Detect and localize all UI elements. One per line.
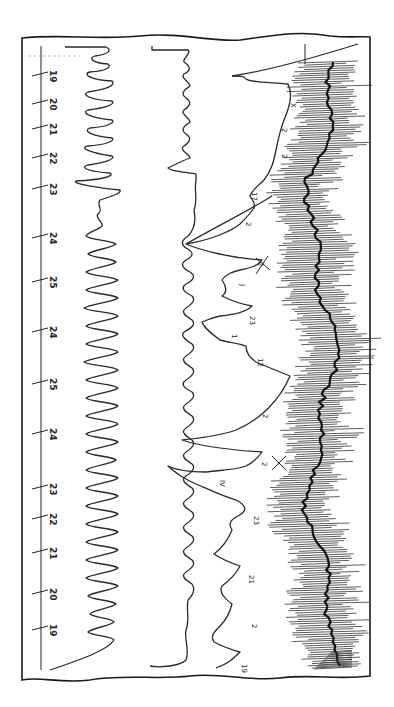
axis-tick-label: 23 bbox=[48, 483, 58, 496]
axis-tick-label: 22 bbox=[48, 513, 58, 526]
axis-tick bbox=[32, 626, 48, 630]
axis-tick bbox=[32, 430, 48, 434]
axis-tick-label: 25 bbox=[48, 276, 58, 289]
svg-text:IV: IV bbox=[218, 480, 226, 487]
axis-tick bbox=[32, 515, 48, 519]
axis-tick bbox=[32, 154, 48, 158]
axis-tick-label: 23 bbox=[48, 183, 58, 196]
axis-tick bbox=[32, 590, 48, 594]
scanned-chart: 192021222324252425242322212019 X 2 2 17 … bbox=[0, 0, 394, 707]
svg-text:2: 2 bbox=[250, 624, 258, 628]
axis-tick bbox=[32, 549, 48, 553]
svg-text:19: 19 bbox=[240, 664, 248, 673]
svg-text:23: 23 bbox=[252, 516, 260, 525]
svg-text:2: 2 bbox=[280, 128, 288, 132]
trace-3-arc-mid bbox=[186, 196, 272, 244]
axis-tick-label: 22 bbox=[48, 152, 58, 165]
axis-tick bbox=[32, 234, 48, 238]
axis-tick-label: 21 bbox=[48, 123, 58, 136]
svg-text:1: 1 bbox=[230, 334, 238, 338]
svg-text:J: J bbox=[238, 283, 246, 286]
trace-4 bbox=[266, 44, 381, 669]
axis-tick bbox=[32, 380, 48, 384]
axis-tick bbox=[32, 278, 48, 282]
axis-tick bbox=[32, 100, 48, 104]
axis-tick-label: 24 bbox=[48, 232, 58, 245]
axis-tick bbox=[32, 185, 48, 189]
svg-text:21: 21 bbox=[247, 575, 255, 584]
svg-text:2: 2 bbox=[280, 154, 288, 158]
axis-tick-label: 21 bbox=[48, 547, 58, 560]
trace-2 bbox=[150, 46, 196, 667]
axis-tick-label: 24 bbox=[48, 428, 58, 441]
axis-tick bbox=[32, 72, 48, 76]
axis-tick-label: 25 bbox=[48, 378, 58, 391]
svg-text:23: 23 bbox=[248, 316, 256, 325]
axis-tick-label: 19 bbox=[48, 70, 58, 83]
svg-text:17: 17 bbox=[250, 192, 258, 201]
axis-tick bbox=[32, 485, 48, 489]
trace-3-arc-top bbox=[232, 44, 358, 76]
svg-text:X: X bbox=[289, 103, 297, 108]
svg-text:12: 12 bbox=[256, 358, 264, 367]
axis-tick-label: 20 bbox=[48, 588, 58, 601]
svg-text:2: 2 bbox=[244, 222, 252, 226]
svg-text:2: 2 bbox=[261, 414, 269, 418]
axis-tick bbox=[32, 328, 48, 332]
axis-tick-label: 19 bbox=[48, 624, 58, 637]
axis-tick bbox=[32, 125, 48, 129]
svg-text:2: 2 bbox=[260, 462, 268, 466]
axis-tick-label: 24 bbox=[48, 326, 58, 339]
time-axis: 192021222324252425242322212019 bbox=[28, 46, 80, 670]
trace-1 bbox=[50, 47, 120, 670]
axis-tick-label: 20 bbox=[48, 98, 58, 111]
